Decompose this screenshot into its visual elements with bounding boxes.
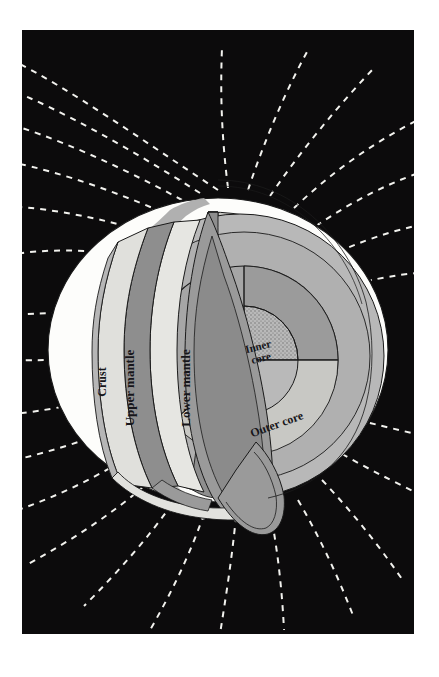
- figure-root: Crust Upper mantle Lower mantle Outer co…: [0, 0, 439, 677]
- label-lower-mantle: Lower mantle: [178, 349, 193, 427]
- label-upper-mantle: Upper mantle: [122, 349, 137, 426]
- label-crust: Crust: [95, 367, 109, 396]
- diagram-panel: Crust Upper mantle Lower mantle Outer co…: [22, 30, 414, 634]
- earth-cutaway-diagram: Crust Upper mantle Lower mantle Outer co…: [22, 30, 414, 634]
